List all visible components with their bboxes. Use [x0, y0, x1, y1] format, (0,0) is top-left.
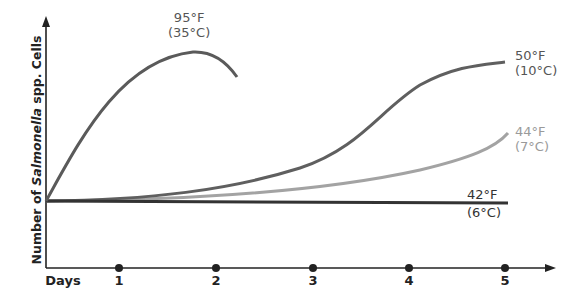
series-44f-line [46, 133, 508, 201]
label-7c: (7°C) [515, 139, 549, 154]
series-42f-line [46, 201, 508, 203]
series-95f-line [46, 52, 237, 201]
y-axis-label: Number of Salmonella spp. Cells [29, 36, 44, 265]
label-42f: 42°F [467, 187, 501, 202]
label-10c: (10°C) [515, 63, 557, 78]
chart-canvas [0, 0, 585, 307]
series-44f-label: 44°F (7°C) [515, 124, 549, 154]
tick-dot-1 [115, 264, 123, 272]
tick-label-3: 3 [308, 273, 317, 288]
label-44f: 44°F [515, 124, 549, 139]
label-95f: 95°F [168, 10, 210, 25]
tick-dot-5 [501, 264, 509, 272]
series-42f-label: 42°F (6°C) [467, 187, 501, 220]
tick-label-5: 5 [500, 273, 509, 288]
tick-dot-2 [212, 264, 220, 272]
x-axis-label: Days [45, 273, 80, 288]
tick-label-1: 1 [114, 273, 123, 288]
series-95f-label: 95°F (35°C) [168, 10, 210, 40]
x-axis-arrow-icon [545, 264, 556, 272]
series-50f-label: 50°F (10°C) [515, 48, 557, 78]
tick-label-2: 2 [211, 273, 220, 288]
tick-dot-3 [309, 264, 317, 272]
label-35c: (35°C) [168, 25, 210, 40]
label-6c: (6°C) [467, 205, 501, 220]
tick-label-4: 4 [404, 273, 413, 288]
y-axis-arrow-icon [42, 16, 50, 27]
series-50f-line [46, 62, 505, 201]
label-50f: 50°F [515, 48, 557, 63]
tick-dot-4 [405, 264, 413, 272]
